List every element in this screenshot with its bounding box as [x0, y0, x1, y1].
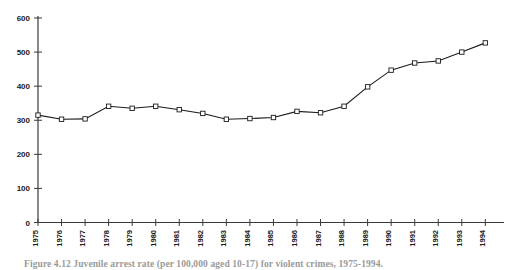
data-point-marker [130, 106, 134, 110]
y-axis-tick-label: 500 [17, 48, 31, 57]
x-axis-tick-label: 1979 [125, 230, 134, 247]
data-point-marker [460, 50, 464, 54]
x-axis-tick-label: 1990 [384, 230, 393, 247]
y-axis-tick-label: 100 [17, 184, 31, 193]
y-axis-tick-label: 400 [17, 82, 31, 91]
x-axis-tick-label: 1993 [455, 230, 464, 247]
data-point-marker [224, 117, 228, 121]
line-chart: 0100200300400500600 19751976197719781979… [0, 0, 516, 270]
data-point-marker [271, 115, 275, 119]
data-point-marker [201, 111, 205, 115]
x-axis-tick-labels: 1975197619771978197919801981198219831984… [31, 229, 487, 247]
x-axis-tick-label: 1984 [243, 229, 252, 247]
x-axis-tick-label: 1980 [149, 230, 158, 247]
data-point-marker [154, 104, 158, 108]
data-point-marker [342, 104, 346, 108]
x-axis-tick-label: 1989 [361, 230, 370, 247]
data-point-marker [436, 59, 440, 63]
x-axis-tick-label: 1991 [408, 230, 417, 247]
data-point-marker [248, 116, 252, 120]
x-axis-tick-label: 1978 [102, 230, 111, 247]
x-axis-tick-label: 1987 [314, 230, 323, 247]
data-series-line [38, 43, 485, 119]
x-axis-tick-label: 1981 [172, 230, 181, 247]
data-point-marker [59, 117, 63, 121]
x-axis-tick-label: 1985 [266, 230, 275, 247]
data-point-marker [389, 68, 393, 72]
x-axis-tick-label: 1975 [31, 230, 40, 247]
y-axis-tick-label: 200 [17, 150, 31, 159]
data-point-marker [83, 117, 87, 121]
x-axis-tick-label: 1986 [290, 230, 299, 247]
data-point-marker [295, 109, 299, 113]
x-axis-tick-label: 1994 [478, 229, 487, 247]
x-axis-tick-label: 1976 [55, 230, 64, 247]
y-axis-tick-label: 600 [17, 14, 31, 23]
figure-container: 0100200300400500600 19751976197719781979… [0, 0, 516, 270]
y-axis-tick-label: 300 [17, 116, 31, 125]
data-point-marker [483, 41, 487, 45]
x-axis-tick-label: 1982 [196, 230, 205, 247]
data-point-marker [365, 85, 369, 89]
y-axis-tick-label: 0 [26, 219, 31, 228]
data-point-marker [177, 107, 181, 111]
data-point-marker [36, 113, 40, 117]
y-axis-tick-labels: 0100200300400500600 [17, 14, 31, 228]
data-point-marker [106, 104, 110, 108]
x-axis-tick-label: 1988 [337, 230, 346, 247]
x-axis-tick-label: 1977 [78, 230, 87, 247]
x-axis-tick-label: 1983 [219, 230, 228, 247]
x-axis-tick-label: 1992 [431, 230, 440, 247]
figure-caption: Figure 4.12 Juvenile arrest rate (per 10… [24, 259, 504, 269]
data-point-marker [318, 111, 322, 115]
data-point-marker [413, 61, 417, 65]
